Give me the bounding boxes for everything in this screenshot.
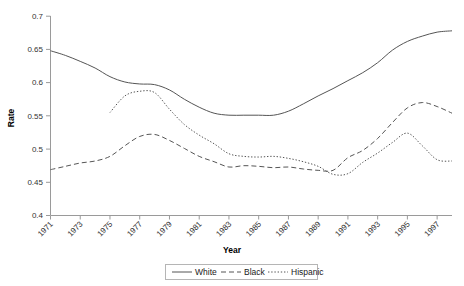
line-chart: 0.4 0.45 0.5 0.55 0.6 0.65 0.7 Rate 1971…	[0, 0, 464, 286]
legend-label-black: Black	[244, 267, 266, 277]
y-tick-label: 0.5	[32, 145, 44, 154]
y-tick-label: 0.55	[27, 112, 43, 121]
y-tick-label: 0.65	[27, 45, 43, 54]
y-tick-label: 0.4	[32, 211, 44, 220]
legend-label-white: White	[195, 267, 217, 277]
series-line-black	[51, 103, 453, 172]
x-tick-label: 1991	[333, 219, 352, 238]
chart-container: 0.4 0.45 0.5 0.55 0.6 0.65 0.7 Rate 1971…	[0, 0, 464, 286]
x-tick-label: 1989	[304, 219, 323, 238]
x-axis-ticks	[51, 216, 438, 220]
y-tick-label: 0.45	[27, 178, 43, 187]
x-tick-label: 1997	[423, 219, 442, 238]
x-tick-label: 1971	[36, 219, 55, 238]
x-axis-title: Year	[223, 245, 242, 255]
y-axis-ticks	[46, 16, 51, 215]
x-tick-label: 1983	[214, 219, 233, 238]
y-tick-label: 0.7	[32, 12, 44, 21]
x-tick-label: 1993	[363, 219, 382, 238]
x-axis-tick-labels: 1971197319751977197919811983198519871989…	[36, 219, 442, 238]
y-tick-label: 0.6	[32, 78, 44, 87]
x-tick-label: 1995	[393, 219, 412, 238]
series-line-white	[51, 31, 453, 116]
x-tick-label: 1985	[244, 219, 263, 238]
legend-label-hispanic: Hispanic	[291, 267, 324, 277]
x-tick-label: 1979	[155, 219, 174, 238]
chart-legend: White Black Hispanic	[166, 265, 325, 280]
x-tick-label: 1975	[95, 219, 114, 238]
x-tick-label: 1977	[125, 219, 144, 238]
y-axis-title: Rate	[6, 109, 16, 128]
x-tick-label: 1981	[185, 219, 204, 238]
series-line-hispanic	[110, 91, 452, 176]
x-tick-label: 1987	[274, 219, 293, 238]
x-tick-label: 1973	[66, 219, 85, 238]
y-axis-tick-labels: 0.4 0.45 0.5 0.55 0.6 0.65 0.7	[27, 12, 43, 220]
